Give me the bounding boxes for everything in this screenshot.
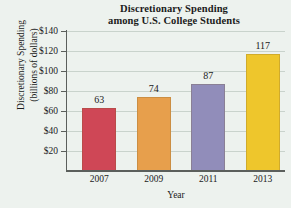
x-axis-title: Year [67, 190, 285, 200]
chart-title-line-2: among U.S. College Students [62, 15, 286, 27]
bar-2009 [137, 97, 171, 171]
y-axis-tick [61, 111, 67, 112]
bar-value-label: 74 [149, 83, 159, 94]
x-axis-tick-label: 2007 [90, 174, 109, 184]
chart-title: Discretionary Spending among U.S. Colleg… [62, 3, 286, 27]
bar-2013 [246, 54, 280, 171]
y-axis-title: Discretionary Spending (billions of doll… [15, 0, 41, 140]
bar-2011 [191, 84, 225, 171]
x-axis-tick-label: 2013 [253, 174, 272, 184]
y-axis-tick-label: $80 [44, 86, 58, 96]
bar-value-label: 117 [255, 40, 270, 51]
bar-value-label: 63 [94, 94, 104, 105]
y-axis-tick-label: $40 [44, 126, 58, 136]
gridline [67, 31, 285, 32]
bar-value-label: 87 [203, 70, 213, 81]
x-axis-tick-label: 2009 [144, 174, 163, 184]
y-axis-tick [61, 131, 67, 132]
y-axis-tick [61, 51, 67, 52]
y-axis-tick-label: $140 [39, 26, 58, 36]
x-axis-spine [66, 170, 285, 172]
chart-title-line-1: Discretionary Spending [62, 3, 286, 15]
gridline [67, 51, 285, 52]
y-axis-tick [61, 71, 67, 72]
x-axis-tick-label: 2011 [199, 174, 218, 184]
y-axis-tick [61, 91, 67, 92]
y-axis-tick-label: $120 [39, 46, 58, 56]
y-axis-tick-label: $100 [39, 66, 58, 76]
y-axis-title-line-1: Discretionary Spending [15, 0, 28, 140]
y-axis-tick-label: $60 [44, 106, 58, 116]
bar-chart-figure: Discretionary Spending among U.S. Colleg… [0, 0, 291, 208]
bar-2007 [82, 108, 116, 171]
y-axis-tick-label: $20 [44, 146, 58, 156]
y-axis-tick [61, 31, 67, 32]
y-axis-tick [61, 151, 67, 152]
